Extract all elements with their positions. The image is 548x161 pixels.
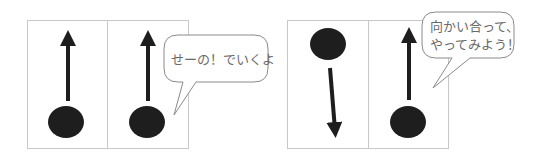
speech-bubble-text: せーの！でいくよ <box>171 51 275 68</box>
ball-icon <box>390 106 426 138</box>
ball-icon <box>310 28 346 60</box>
speech-bubble-text-line1: 向かい合って、 <box>430 18 519 35</box>
speech-bubble-text-line2: やってみよう！ <box>430 36 520 53</box>
down-arrow-icon <box>330 68 335 130</box>
ball-icon <box>129 106 165 138</box>
ball-icon <box>48 106 84 138</box>
speech-bubble <box>164 35 268 115</box>
